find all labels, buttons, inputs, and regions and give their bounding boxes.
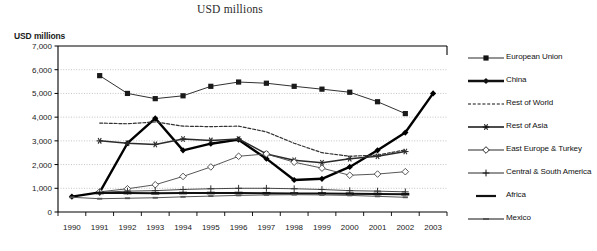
legend-item-label: Rest of Asia xyxy=(506,119,548,131)
legend-item[interactable]: Africa xyxy=(466,188,597,210)
svg-text:1990: 1990 xyxy=(63,223,81,232)
y-axis-tick-labels: 01,0002,0003,0004,0005,0006,0007,000 xyxy=(32,42,53,217)
svg-text:1993: 1993 xyxy=(146,223,164,232)
legend-item[interactable]: Central & South America xyxy=(466,165,597,187)
legend-item-label: Rest of World xyxy=(506,96,553,108)
legend-item-label: Africa xyxy=(506,188,526,200)
svg-text:1999: 1999 xyxy=(313,223,331,232)
svg-text:1997: 1997 xyxy=(257,223,275,232)
svg-text:2,000: 2,000 xyxy=(32,161,53,170)
x-axis-tick-labels: 1990199119921993199419951996199719981999… xyxy=(63,223,443,232)
svg-text:3,000: 3,000 xyxy=(32,137,53,146)
legend-item-label: Mexico xyxy=(506,211,531,223)
svg-text:2003: 2003 xyxy=(424,223,442,232)
thick-dash-icon xyxy=(466,189,506,203)
dashed-icon xyxy=(466,97,506,111)
svg-text:0: 0 xyxy=(48,208,53,217)
chart-container: USD millions USD millions 01,0002,0003,0… xyxy=(0,0,597,251)
asterisk-icon xyxy=(466,120,506,134)
svg-text:1,000: 1,000 xyxy=(32,184,53,193)
filled-diamond-icon xyxy=(466,74,506,88)
svg-text:7,000: 7,000 xyxy=(32,42,53,51)
svg-text:6,000: 6,000 xyxy=(32,66,53,75)
svg-text:4,000: 4,000 xyxy=(32,113,53,122)
data-series-layer xyxy=(69,73,436,200)
legend-item[interactable]: European Union xyxy=(466,50,597,72)
svg-text:1992: 1992 xyxy=(119,223,137,232)
legend-item[interactable]: East Europe & Turkey xyxy=(466,142,597,164)
gray-dash-icon xyxy=(466,212,506,226)
legend-item[interactable]: Rest of World xyxy=(466,96,597,118)
x-axis-ticks xyxy=(58,212,447,216)
svg-text:5,000: 5,000 xyxy=(32,89,53,98)
legend-item[interactable]: Rest of Asia xyxy=(466,119,597,141)
filled-square-icon xyxy=(466,51,506,65)
legend-item-label: Central & South America xyxy=(506,165,591,177)
open-diamond-icon xyxy=(466,143,506,157)
svg-text:2000: 2000 xyxy=(341,223,359,232)
legend-item[interactable]: China xyxy=(466,73,597,95)
legend-item-label: East Europe & Turkey xyxy=(506,142,582,154)
svg-text:1998: 1998 xyxy=(285,223,303,232)
legend-item-label: China xyxy=(506,73,526,85)
legend-item-label: European Union xyxy=(506,50,562,62)
svg-text:2001: 2001 xyxy=(369,223,387,232)
plus-icon xyxy=(466,166,506,180)
svg-text:1995: 1995 xyxy=(202,223,220,232)
legend-item[interactable]: Mexico xyxy=(466,211,597,233)
svg-text:2002: 2002 xyxy=(396,223,414,232)
svg-text:1996: 1996 xyxy=(230,223,248,232)
svg-text:1994: 1994 xyxy=(174,223,192,232)
svg-text:1991: 1991 xyxy=(91,223,109,232)
chart-legend: European UnionChinaRest of WorldRest of … xyxy=(466,50,597,234)
